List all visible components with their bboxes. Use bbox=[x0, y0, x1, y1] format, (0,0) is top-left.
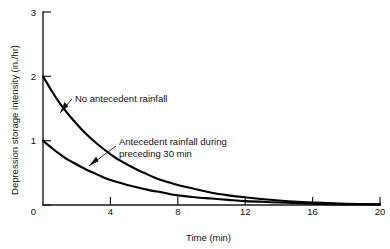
x-axis-title: Time (min) bbox=[186, 232, 231, 243]
annotation-label-antecedent-rainfall-line2: preceding 30 min bbox=[119, 148, 192, 159]
x-tick-label-20: 20 bbox=[375, 206, 386, 217]
annotation-label-antecedent-rainfall-line1: Antecedent rainfall during bbox=[119, 136, 227, 147]
x-tick-label-16: 16 bbox=[307, 206, 318, 217]
chart-background bbox=[0, 0, 390, 249]
y-tick-label-2: 2 bbox=[31, 71, 36, 82]
y-tick-label-1: 1 bbox=[31, 135, 36, 146]
chart-figure: 3 2 1 0 4 8 12 16 20 Depression storage … bbox=[0, 0, 390, 249]
y-axis-title: Depression storage intensity (in./hr) bbox=[9, 45, 20, 195]
annotation-label-no-antecedent-rainfall: No antecedent rainfall bbox=[75, 93, 167, 104]
y-tick-label-3: 3 bbox=[31, 7, 36, 18]
y-tick-label-0: 0 bbox=[31, 206, 36, 217]
x-tick-label-4: 4 bbox=[108, 206, 113, 217]
x-tick-label-8: 8 bbox=[175, 206, 180, 217]
depression-storage-chart: 3 2 1 0 4 8 12 16 20 Depression storage … bbox=[0, 0, 390, 249]
x-tick-label-12: 12 bbox=[240, 206, 251, 217]
